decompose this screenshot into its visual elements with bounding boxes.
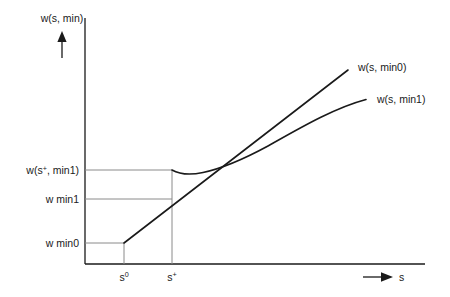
x-tick-sup-s-plus: +	[173, 270, 177, 279]
y-tick-label-w-min1: w min1	[45, 193, 79, 205]
y-tick-label-w-s-plus-min1: w(s+, min1)	[25, 164, 79, 177]
curve-w-s-min0	[124, 70, 348, 243]
x-tick-label-s-zero: s0	[119, 270, 128, 283]
diagram-canvas: w(s, min) s w(s, min0) w(s, min1) w(s+, …	[0, 0, 450, 297]
right-arrow-icon	[363, 272, 393, 282]
y-tick-label-w-min0: w min0	[45, 237, 79, 249]
x-tick-label-s-plus: s+	[167, 270, 176, 283]
up-arrow-icon	[57, 31, 66, 58]
x-axis-label: s	[399, 271, 404, 283]
curve-w-s-min1	[172, 100, 366, 174]
y-tick-tail-w-s-plus-min1: , min1)	[47, 164, 79, 176]
y-axis-label: w(s, min)	[40, 12, 84, 24]
economics-wage-diagram: w(s, min) s w(s, min0) w(s, min1) w(s+, …	[0, 0, 450, 297]
x-tick-sup-s-zero: 0	[125, 270, 129, 279]
curve-label-w-s-min0: w(s, min0)	[357, 61, 406, 73]
y-tick-base-w-s-plus-min1: w(s	[25, 164, 42, 176]
curve-label-w-s-min1: w(s, min1)	[376, 93, 425, 105]
